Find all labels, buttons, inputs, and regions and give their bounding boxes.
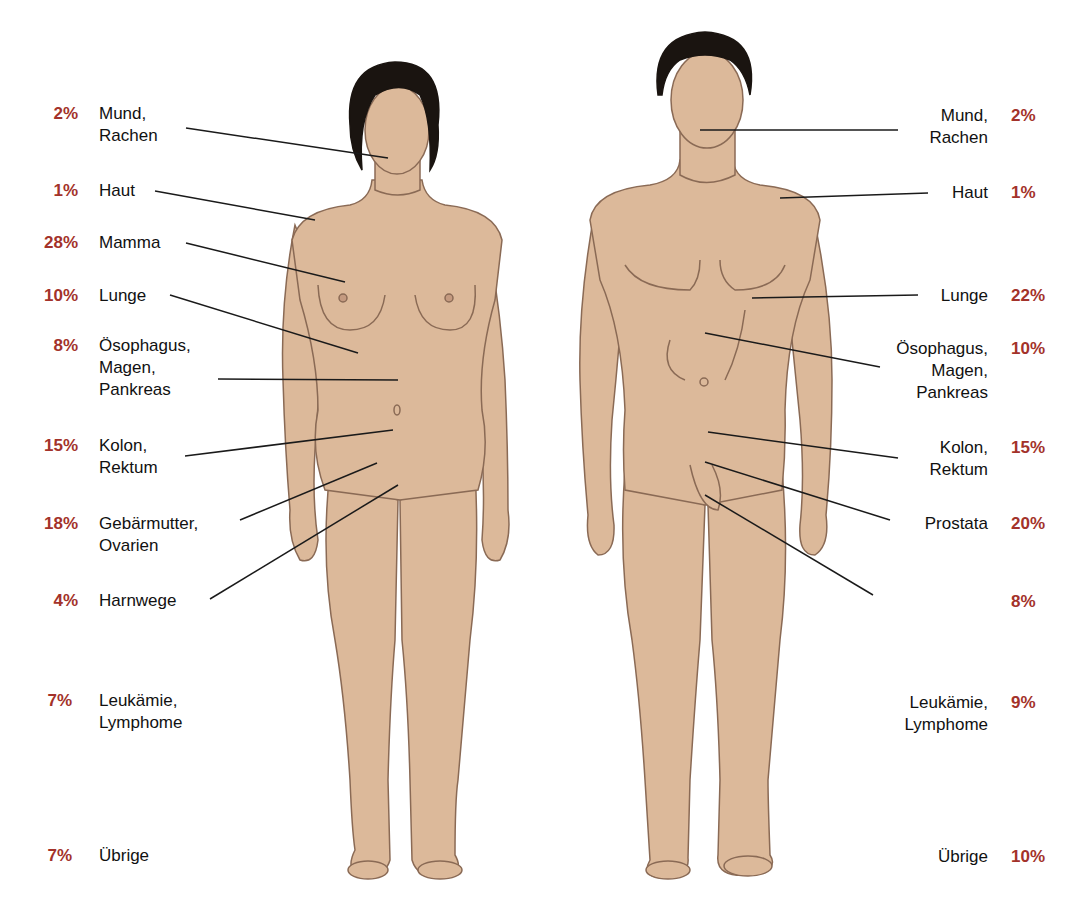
male-label-oesophagus: Ösophagus, Magen, Pankreas — [896, 338, 988, 404]
female-pct-harnwege: 4% — [28, 590, 78, 612]
male-body — [580, 32, 832, 879]
female-label-uebrige: Übrige — [99, 845, 149, 867]
male-label-uebrige: Übrige — [938, 846, 988, 868]
female-label-leukaemie: Leukämie, Lymphome — [99, 690, 182, 734]
female-body — [283, 62, 510, 879]
male-pct-harnwege: 8% — [1011, 591, 1036, 613]
female-pct-mamma: 28% — [28, 232, 78, 254]
cancer-distribution-diagram: 2% Mund, Rachen 1% Haut 28% Mamma 10% Lu… — [0, 0, 1088, 917]
female-pct-uebrige: 7% — [22, 845, 72, 867]
male-pct-mund-rachen: 2% — [1011, 105, 1036, 127]
female-pct-kolon: 15% — [28, 435, 78, 457]
male-pct-haut: 1% — [1011, 182, 1036, 204]
female-pct-lunge: 10% — [28, 285, 78, 307]
female-pct-mund-rachen: 2% — [28, 103, 78, 125]
female-pct-gebaermutter: 18% — [28, 513, 78, 535]
male-label-kolon: Kolon, Rektum — [929, 437, 988, 481]
female-label-harnwege: Harnwege — [99, 590, 177, 612]
female-label-gebaermutter: Gebärmutter, Ovarien — [99, 513, 198, 557]
female-pct-leukaemie: 7% — [22, 690, 72, 712]
female-label-haut: Haut — [99, 180, 135, 202]
male-label-lunge: Lunge — [941, 285, 988, 307]
male-label-haut: Haut — [952, 182, 988, 204]
female-label-kolon: Kolon, Rektum — [99, 435, 158, 479]
male-label-prostata: Prostata — [925, 513, 988, 535]
male-label-mund-rachen: Mund, Rachen — [929, 105, 988, 149]
body-figures — [0, 0, 1088, 917]
female-label-lunge: Lunge — [99, 285, 146, 307]
male-pct-lunge: 22% — [1011, 285, 1045, 307]
female-label-mund-rachen: Mund, Rachen — [99, 103, 158, 147]
male-pct-leukaemie: 9% — [1011, 692, 1036, 714]
male-pct-prostata: 20% — [1011, 513, 1045, 535]
male-pct-kolon: 15% — [1011, 437, 1045, 459]
female-label-oesophagus: Ösophagus, Magen, Pankreas — [99, 335, 191, 401]
female-pct-oesophagus: 8% — [28, 335, 78, 357]
female-pct-haut: 1% — [28, 180, 78, 202]
female-label-mamma: Mamma — [99, 232, 160, 254]
male-pct-oesophagus: 10% — [1011, 338, 1045, 360]
male-pct-uebrige: 10% — [1011, 846, 1045, 868]
male-label-leukaemie: Leukämie, Lymphome — [905, 692, 988, 736]
